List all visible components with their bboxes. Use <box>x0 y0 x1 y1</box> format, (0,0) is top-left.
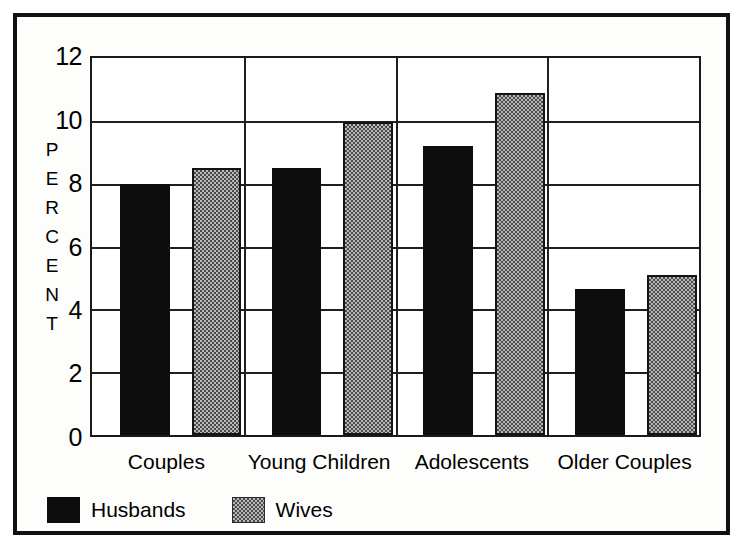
y-axis-title-letter: C <box>39 222 65 251</box>
chart-legend: Husbands Wives <box>47 497 333 523</box>
y-tick-label: 4 <box>69 298 82 323</box>
x-label-couples: Couples <box>128 449 205 475</box>
group-separator-1 <box>244 58 246 435</box>
y-axis-title-letter: R <box>39 193 65 222</box>
bar-couples-wives <box>192 168 242 435</box>
y-axis-title-letter: P <box>39 135 65 164</box>
x-label-adolescents: Adolescents <box>415 449 529 475</box>
bar-young-children-husbands <box>272 168 322 435</box>
legend-swatch-wives-icon <box>232 497 265 523</box>
bar-young-children-wives <box>343 122 393 435</box>
bar-older-couples-husbands <box>575 289 625 435</box>
y-axis-title-letter: E <box>39 251 65 280</box>
x-axis-category-labels: Couples Young Children Adolescents Older… <box>90 449 701 479</box>
y-axis-title-letter: N <box>39 280 65 309</box>
legend-swatch-husbands-icon <box>47 497 80 523</box>
bar-adolescents-wives <box>495 93 545 435</box>
y-tick-label: 0 <box>69 425 82 450</box>
y-axis-title: P E R C E N T <box>39 135 65 338</box>
bar-older-couples-wives <box>647 275 697 435</box>
y-tick-label: 12 <box>55 44 82 69</box>
group-separator-2 <box>396 58 398 435</box>
legend-label-wives: Wives <box>276 498 333 522</box>
y-axis-title-letter: T <box>39 309 65 338</box>
y-tick-label: 8 <box>69 170 82 195</box>
chart-frame: 12 10 8 6 4 2 0 P E R C E N T <box>13 13 730 535</box>
y-axis-title-letter: E <box>39 164 65 193</box>
y-tick-label: 6 <box>69 234 82 259</box>
x-label-older-couples: Older Couples <box>558 449 692 475</box>
y-tick-label: 10 <box>55 107 82 132</box>
x-label-young-children: Young Children <box>248 449 391 475</box>
y-tick-label: 2 <box>69 361 82 386</box>
bar-adolescents-husbands <box>423 146 473 435</box>
bar-couples-husbands <box>120 184 170 435</box>
legend-item-wives: Wives <box>232 497 333 523</box>
group-separator-3 <box>547 58 549 435</box>
plot-area <box>90 56 701 437</box>
legend-item-husbands: Husbands <box>47 497 186 523</box>
legend-label-husbands: Husbands <box>91 498 186 522</box>
